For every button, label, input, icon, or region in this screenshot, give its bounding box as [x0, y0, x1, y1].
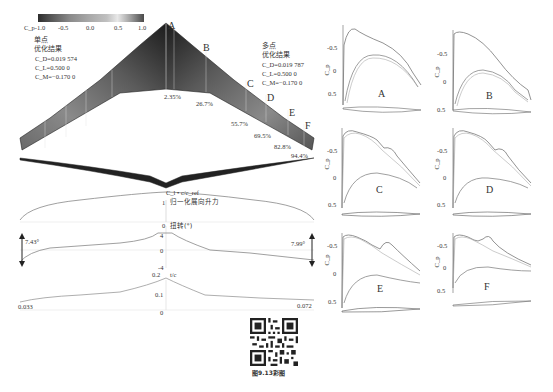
- twist-plot-ytick: 0: [160, 247, 163, 255]
- span-station: 82.8%: [274, 143, 291, 151]
- cp-f-tick: 0.5: [437, 287, 445, 295]
- section-letter-c: C: [247, 78, 254, 89]
- cp-c-tick: 0.5: [328, 201, 336, 209]
- thickness-left-value: 0.033: [18, 303, 33, 311]
- cp-b-tick: 0: [443, 78, 446, 86]
- cp-c-tick: -0.5: [327, 147, 337, 155]
- thickness-right-value: 0.072: [297, 302, 312, 310]
- thickness-plot-ytick: 0: [160, 309, 163, 317]
- cp-d-letter: D: [486, 186, 493, 194]
- cp-f-letter: F: [484, 283, 490, 291]
- section-letter-a: A: [168, 20, 175, 31]
- cp-a-tick: -0.5: [327, 44, 337, 52]
- twist-plot-title: 扭转(°): [170, 222, 192, 230]
- cp-a-tick: 0.5: [328, 90, 336, 98]
- cp-b-ylabel: C_p: [433, 67, 441, 78]
- cp-plot-C: [342, 128, 420, 216]
- qr-code-pattern: [250, 318, 298, 366]
- qr-code[interactable]: [250, 318, 298, 366]
- thickness-plot-ytick: 0.2: [152, 271, 160, 279]
- cp-a-ylabel: C_p: [323, 65, 331, 76]
- cp-plot-B: [453, 30, 531, 114]
- cp-plot-F: [453, 233, 531, 306]
- span-station: 55.7%: [231, 120, 248, 128]
- cp-e-letter: E: [377, 285, 383, 293]
- cp-d-tick: -0.5: [437, 147, 447, 155]
- twist-plot: [19, 226, 315, 268]
- cp-f-ylabel: C_p: [433, 257, 441, 268]
- section-letter-e: E: [289, 107, 295, 118]
- cp-e-tick: -0.5: [327, 242, 337, 250]
- span-station: 26.7%: [196, 100, 213, 108]
- wing-planform-left: [20, 23, 166, 150]
- cp-d-ylabel: C_p: [433, 159, 441, 170]
- lift-plot-ylabel: C_l • c/c_ref: [166, 189, 199, 197]
- cp-plot-E: [342, 233, 420, 312]
- cp-f-tick: 0: [443, 264, 446, 272]
- cp-b-tick: 0.5: [437, 106, 445, 114]
- cp-f-tick: -0.5: [437, 242, 447, 250]
- lift-plot-title: 归一化展向升力: [170, 198, 219, 206]
- twist-left-value: 7.43°: [25, 238, 39, 246]
- cp-e-tick: 0: [333, 270, 336, 278]
- thickness-plot-ylabel: t/c: [170, 271, 177, 279]
- cp-c-letter: C: [376, 186, 383, 194]
- cp-plot-A: [343, 25, 421, 112]
- cp-e-tick: 0.5: [328, 298, 336, 306]
- cp-b-tick: -0.5: [437, 50, 447, 58]
- qr-caption: 图9.13彩图: [252, 368, 285, 377]
- span-station: 94.4%: [291, 152, 308, 160]
- cp-d-tick: 0.5: [437, 201, 445, 209]
- cp-a-letter: A: [378, 90, 385, 98]
- section-letter-f: F: [305, 120, 311, 131]
- cp-c-tick: 0: [333, 174, 336, 182]
- cp-plot-D: [453, 128, 531, 216]
- cp-d-tick: 0: [443, 174, 446, 182]
- thickness-plot: [20, 278, 314, 310]
- thickness-plot-ytick: 0.1: [155, 291, 163, 299]
- wing-front-view: [20, 158, 314, 188]
- cp-b-letter: B: [486, 92, 493, 100]
- span-station: 69.5%: [254, 132, 271, 140]
- cp-e-ylabel: C_p: [323, 255, 331, 266]
- wing-planform-right: [166, 23, 314, 150]
- cp-c-ylabel: C_p: [323, 159, 331, 170]
- section-letter-d: D: [267, 92, 274, 103]
- span-station: 2.35%: [164, 93, 181, 101]
- cp-a-tick: 0: [333, 67, 336, 75]
- lift-plot-ytick: 1: [162, 199, 165, 207]
- lift-plot-ytick: 0: [162, 222, 165, 230]
- twist-plot-ytick: 4: [160, 232, 163, 240]
- twist-right-value: 7.99°: [291, 240, 305, 248]
- section-letter-b: B: [203, 42, 210, 53]
